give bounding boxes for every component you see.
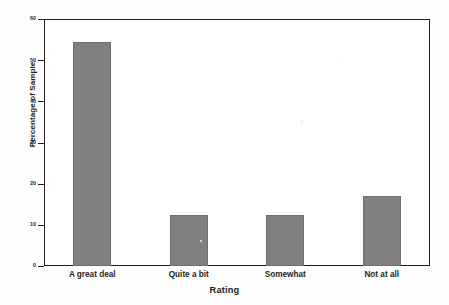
bar-somewhat (266, 215, 304, 266)
y-tick-label: 10 (20, 222, 36, 227)
bars-container (44, 19, 430, 266)
bar-not-at-all (363, 196, 401, 266)
y-tick-label: 60 (20, 16, 36, 21)
bar-quite-a-bit (170, 215, 208, 266)
y-tick-label: 0 (20, 263, 36, 268)
y-tick-mark (38, 266, 44, 267)
bar-a-great-deal (73, 42, 111, 266)
x-axis-title: Rating (0, 285, 449, 295)
x-tick-label-not-at-all: Not at all (322, 271, 442, 279)
y-axis-title: Percentage of Sample (28, 25, 37, 185)
bar-chart-figure: 0 10 20 30 40 50 60 A great deal Quite a… (0, 0, 449, 305)
